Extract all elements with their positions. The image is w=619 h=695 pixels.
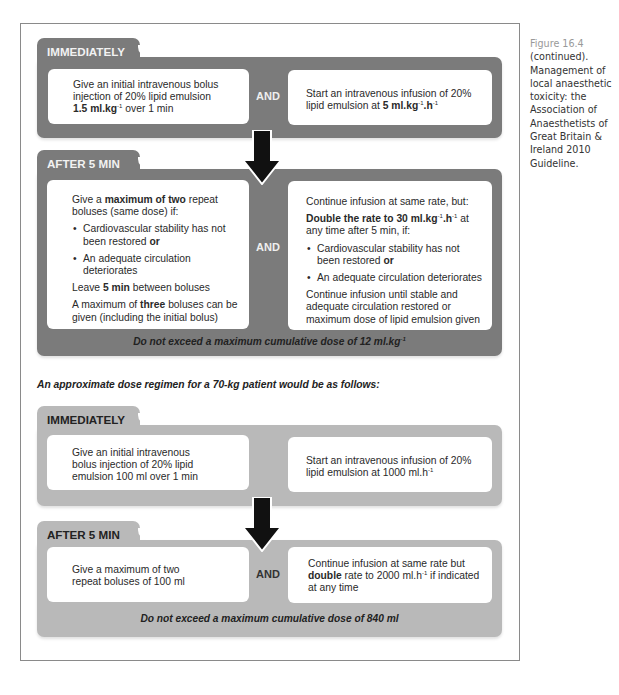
box-repeat-boluses: Give a maximum of two repeat boluses (sa… (47, 180, 249, 329)
box-start-infusion: Start an intravenous infusion of 20% lip… (288, 70, 492, 125)
bold-text: double (308, 570, 342, 581)
bullet-item: Cardiovascular stability has not been re… (306, 243, 484, 267)
bold-text: or (383, 255, 393, 266)
bullet-item: An adequate circulation deteriorates (306, 272, 484, 284)
caption-text: (continued). Management of local anaesth… (530, 51, 612, 168)
box-start-infusion-70kg: Start an intravenous infusion of 20% lip… (288, 437, 492, 492)
superscript: -1 (428, 467, 433, 473)
bullet-item: An adequate circulation deteriorates (72, 253, 239, 277)
panel-immediately-70kg: IMMEDIATELY Give an initial intravenous … (37, 425, 502, 506)
text: An adequate circulation deteriorates (83, 253, 191, 276)
max-dose-note-70kg: Do not exceed a maximum cumulative dose … (37, 613, 502, 624)
bold-text: 5 min (103, 282, 130, 293)
box-initial-bolus-70kg: Give an initial intravenous bolus inject… (47, 435, 249, 490)
text-line: over 1 min (122, 103, 173, 114)
box-continue-infusion: Continue infusion at same rate, but: Dou… (288, 181, 492, 330)
text: rate to 2000 ml.h (342, 570, 422, 581)
panel-immediately: IMMEDIATELY Give an initial intravenous … (37, 57, 502, 138)
text: Continue infusion at same rate but (308, 558, 465, 569)
bullet-item: Cardiovascular stability has not been re… (72, 223, 239, 247)
text-line: Give an initial intravenous bolus (73, 79, 218, 90)
box-initial-bolus: Give an initial intravenous bolus inject… (48, 69, 249, 124)
tab-after-5-min: AFTER 5 MIN (37, 150, 140, 176)
bold-text: three (140, 299, 165, 310)
down-arrow-icon (243, 130, 281, 185)
panel-after-5-min-70kg: AFTER 5 MIN Give a maximum of two repeat… (37, 540, 502, 637)
box-repeat-boluses-70kg: Give a maximum of two repeat boluses of … (47, 547, 249, 602)
text: Give a (72, 194, 105, 205)
text: Give an initial intravenous bolus inject… (72, 447, 212, 484)
bold-text: or (149, 236, 159, 247)
text-line: Start an intravenous infusion of 20% (306, 88, 471, 99)
tab-immediately-70kg: IMMEDIATELY (37, 406, 140, 432)
text: A maximum of (72, 299, 140, 310)
dose-bold: 5 ml.kg (383, 100, 418, 111)
down-arrow-icon (243, 497, 281, 552)
box-continue-infusion-70kg: Continue infusion at same rate but doubl… (288, 547, 492, 603)
text: between boluses (130, 282, 210, 293)
dose-bold: 1.5 ml.kg (73, 103, 117, 114)
superscript: -1 (400, 336, 405, 342)
text: Leave (72, 282, 103, 293)
text: Continue infusion at same rate, but: (306, 196, 484, 208)
superscript: -1 (433, 100, 438, 106)
text: Give a maximum of two repeat boluses of … (72, 564, 202, 588)
bold-text: Double the rate to 30 ml.kg (306, 213, 438, 224)
tab-immediately: IMMEDIATELY (37, 38, 140, 64)
and-label: AND (256, 241, 280, 253)
text-line: lipid emulsion at (306, 100, 383, 111)
text: Do not exceed a maximum cumulative dose … (133, 336, 400, 347)
tab-after-5-min-70kg: AFTER 5 MIN (37, 521, 140, 547)
figure-caption: Figure 16.4 (continued). Management of l… (530, 37, 618, 170)
bold-text: maximum of two (105, 194, 186, 205)
max-dose-note: Do not exceed a maximum cumulative dose … (37, 336, 502, 347)
dose-bold: .h (424, 100, 433, 111)
intro-70kg: An approximate dose regimen for a 70-kg … (37, 379, 380, 390)
panel-after-5-min: AFTER 5 MIN Give a maximum of two repeat… (37, 169, 502, 356)
text: An adequate circulation deteriorates (317, 272, 482, 283)
and-label: AND (256, 568, 280, 580)
and-label: AND (256, 90, 280, 102)
text: Start an intravenous infusion of 20% lip… (306, 455, 471, 478)
bold-text: .h (443, 213, 452, 224)
text: Continue infusion until stable and adequ… (306, 289, 484, 326)
text-line: injection of 20% lipid emulsion (73, 91, 211, 102)
figure-label: Figure 16.4 (530, 38, 584, 49)
